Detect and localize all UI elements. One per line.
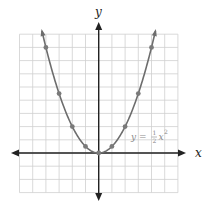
equation-label: y = 1 2 x 2: [130, 128, 168, 144]
data-point: [149, 45, 154, 50]
equation-fraction-den: 2: [153, 137, 157, 144]
y-axis-arrow-up-icon: [95, 22, 102, 30]
data-point: [96, 151, 101, 156]
equation-var: x: [159, 132, 164, 142]
axes: [11, 22, 186, 201]
data-point: [136, 91, 141, 96]
curve-arrow-icon: [152, 29, 157, 36]
y-axis-label: y: [94, 5, 102, 19]
data-point: [123, 124, 128, 129]
x-axis-arrow-left-icon: [11, 150, 19, 157]
parabola-chart: x y y = 1 2 x 2: [0, 0, 211, 206]
data-point: [57, 91, 62, 96]
equation-exponent: 2: [164, 128, 168, 135]
curve-arrow-icon: [41, 29, 46, 36]
equation-fraction-num: 1: [153, 129, 157, 136]
equation-lhs: y =: [130, 132, 147, 142]
y-axis-arrow-down-icon: [95, 193, 102, 201]
x-axis-label: x: [195, 146, 202, 160]
data-point: [44, 45, 49, 50]
data-point: [110, 144, 115, 149]
data-point: [83, 144, 88, 149]
x-axis-arrow-right-icon: [178, 150, 186, 157]
data-point: [70, 124, 75, 129]
